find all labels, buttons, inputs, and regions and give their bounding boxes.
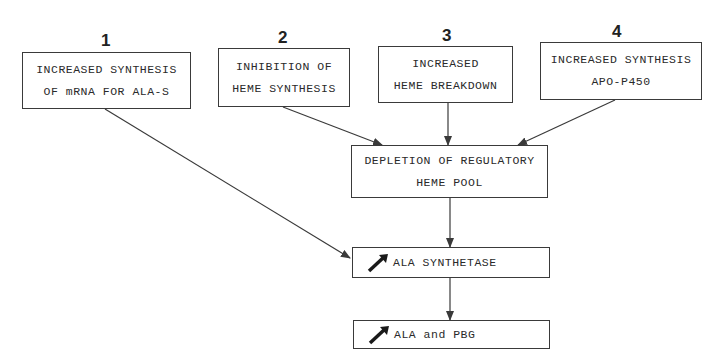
cause-3-line-2: HEME BREAKDOWN — [394, 75, 498, 97]
depletion-box: DEPLETION OF REGULATORY HEME POOL — [351, 145, 548, 198]
cause-3-number: 3 — [442, 26, 451, 46]
ala-synthetase-box: ALA SYNTHETASE — [352, 247, 550, 278]
cause-2-line-2: HEME SYNTHESIS — [232, 78, 336, 100]
arrow-4-to-depletion — [518, 100, 615, 145]
arrow-2-to-depletion — [283, 107, 382, 145]
ala-pbg-box: ALA and PBG — [353, 320, 550, 349]
cause-2-box: INHIBITION OF HEME SYNTHESIS — [218, 48, 350, 107]
cause-1-box: INCREASED SYNTHESIS OF mRNA FOR ALA-S — [22, 52, 191, 109]
cause-1-line-1: INCREASED SYNTHESIS — [36, 59, 177, 81]
cause-2-line-1: INHIBITION OF — [236, 56, 332, 78]
cause-1-line-2: OF mRNA FOR ALA-S — [44, 81, 170, 103]
cause-1-number: 1 — [101, 31, 110, 51]
depletion-line-1: DEPLETION OF REGULATORY — [364, 150, 534, 172]
cause-4-box: INCREASED SYNTHESIS APO-P450 — [540, 42, 702, 100]
increase-arrow-icon — [367, 253, 389, 273]
ala-synthetase-label: ALA SYNTHETASE — [393, 252, 497, 274]
ala-pbg-label: ALA and PBG — [394, 324, 475, 346]
cause-4-line-2: APO-P450 — [591, 71, 650, 93]
cause-4-number: 4 — [612, 22, 621, 42]
arrow-1-to-ala-synthetase — [105, 109, 350, 258]
cause-4-line-1: INCREASED SYNTHESIS — [551, 49, 692, 71]
cause-3-line-1: INCREASED — [412, 53, 479, 75]
depletion-line-2: HEME POOL — [416, 172, 483, 194]
cause-2-number: 2 — [278, 28, 287, 48]
increase-arrow-icon — [368, 325, 390, 345]
cause-3-box: INCREASED HEME BREAKDOWN — [378, 46, 513, 103]
